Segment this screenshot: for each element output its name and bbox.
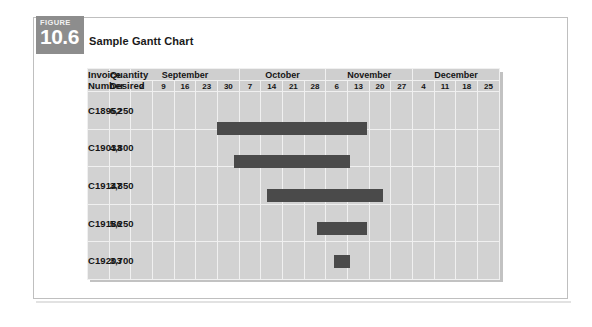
gantt-cell	[391, 204, 413, 242]
gantt-cell	[369, 204, 391, 242]
gantt-cell	[456, 129, 478, 167]
header-month-december: December	[413, 69, 500, 81]
gantt-cell	[478, 92, 500, 130]
gantt-cell	[456, 167, 478, 205]
header-invoice-line1: Invoice	[88, 69, 109, 80]
cell-invoice-number: C18952	[88, 92, 110, 130]
gantt-cell	[326, 242, 348, 280]
header-row-days: 2 9 16 23 30 7 14 21 28 6 13 20 27 4 11 …	[88, 81, 500, 92]
gantt-cell	[413, 129, 435, 167]
header-day-tick: 14	[261, 81, 283, 92]
gantt-cell	[348, 204, 370, 242]
gantt-cell	[131, 167, 153, 205]
gantt-cell	[304, 92, 326, 130]
figure-badge: FIGURE 10.6	[36, 16, 84, 54]
gantt-cell	[153, 167, 175, 205]
table-row: C19147 3,850	[88, 167, 500, 205]
gantt-cell	[413, 204, 435, 242]
gantt-cell	[196, 92, 218, 130]
cell-quantity-desired: 3,700	[109, 242, 131, 280]
header-day-tick: 6	[326, 81, 348, 92]
gantt-cell	[369, 129, 391, 167]
gantt-cell	[218, 204, 240, 242]
gantt-cell	[413, 167, 435, 205]
header-quantity-line2: Desired	[110, 80, 131, 91]
cell-invoice-number: C19147	[88, 167, 110, 205]
gantt-cell	[434, 242, 456, 280]
gantt-cell	[326, 204, 348, 242]
gantt-cell	[413, 92, 435, 130]
gantt-cell	[261, 92, 283, 130]
table-row: C19203 3,700	[88, 242, 500, 280]
gantt-cell	[434, 204, 456, 242]
gantt-cell	[153, 92, 175, 130]
header-day-tick: 7	[239, 81, 261, 92]
gantt-cell	[131, 204, 153, 242]
header-day-tick: 4	[413, 81, 435, 92]
gantt-cell	[196, 167, 218, 205]
header-quantity-desired: Quantity Desired	[109, 69, 131, 92]
gantt-cell	[153, 242, 175, 280]
header-day-tick: 25	[478, 81, 500, 92]
gantt-cell	[283, 129, 305, 167]
gantt-cell	[348, 92, 370, 130]
gantt-cell	[261, 129, 283, 167]
cell-invoice-number: C19033	[88, 129, 110, 167]
header-day-tick: 13	[348, 81, 370, 92]
gantt-cell	[239, 129, 261, 167]
gantt-cell	[283, 242, 305, 280]
header-day-tick: 27	[391, 81, 413, 92]
gantt-cell	[239, 92, 261, 130]
gantt-cell	[131, 242, 153, 280]
gantt-cell	[283, 204, 305, 242]
gantt-cell	[174, 129, 196, 167]
gantt-cell	[174, 92, 196, 130]
gantt-cell	[434, 129, 456, 167]
header-quantity-line1: Quantity	[110, 69, 131, 80]
gantt-cell	[218, 242, 240, 280]
header-row-months: Invoice Number Quantity Desired Septembe…	[88, 69, 500, 81]
gantt-cell	[456, 242, 478, 280]
gantt-cell	[283, 92, 305, 130]
figure-frame-shadow	[36, 301, 571, 303]
gantt-table-body: C18952 6,250 C19033 4,800 C19147 3,850 C…	[88, 92, 500, 280]
gantt-cell	[239, 204, 261, 242]
header-day-tick: 30	[218, 81, 240, 92]
gantt-cell	[261, 242, 283, 280]
table-row: C19186 5,250	[88, 204, 500, 242]
gantt-cell	[456, 92, 478, 130]
gantt-cell	[196, 204, 218, 242]
gantt-cell	[153, 129, 175, 167]
table-row: C18952 6,250	[88, 92, 500, 130]
cell-quantity-desired: 5,250	[109, 204, 131, 242]
gantt-cell	[304, 129, 326, 167]
header-day-tick: 28	[304, 81, 326, 92]
gantt-cell	[326, 129, 348, 167]
gantt-cell	[478, 129, 500, 167]
gantt-cell	[196, 242, 218, 280]
gantt-cell	[153, 204, 175, 242]
header-month-november: November	[326, 69, 413, 81]
gantt-cell	[391, 129, 413, 167]
gantt-cell	[131, 92, 153, 130]
gantt-cell	[413, 242, 435, 280]
gantt-cell	[174, 242, 196, 280]
gantt-cell	[391, 167, 413, 205]
gantt-cell	[131, 129, 153, 167]
gantt-cell	[304, 167, 326, 205]
gantt-cell	[218, 92, 240, 130]
gantt-cell	[391, 242, 413, 280]
gantt-cell	[174, 204, 196, 242]
header-invoice-number: Invoice Number	[88, 69, 110, 92]
gantt-cell	[196, 129, 218, 167]
cell-quantity-desired: 3,850	[109, 167, 131, 205]
cell-invoice-number: C19203	[88, 242, 110, 280]
figure-title: Sample Gantt Chart	[89, 35, 194, 47]
header-day-tick: 21	[283, 81, 305, 92]
gantt-cell	[326, 92, 348, 130]
figure-page: FIGURE 10.6 Sample Gantt Chart Invoice N…	[0, 0, 592, 327]
gantt-cell	[261, 167, 283, 205]
gantt-cell	[434, 92, 456, 130]
gantt-grid: Invoice Number Quantity Desired Septembe…	[87, 68, 500, 280]
cell-quantity-desired: 6,250	[109, 92, 131, 130]
